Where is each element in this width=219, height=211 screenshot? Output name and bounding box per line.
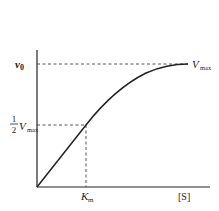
svg-text:1: 1 [12, 114, 17, 124]
svg-text:m: m [88, 196, 94, 204]
half-vmax-label: 1 2 V max [10, 114, 39, 135]
svg-text:max: max [200, 64, 212, 71]
v0-label: v0 [15, 58, 24, 72]
x-axis-label: [S] [178, 191, 190, 202]
vmax-label: V max [192, 58, 212, 71]
svg-text:V: V [19, 120, 27, 132]
svg-text:max: max [27, 126, 39, 133]
svg-text:V: V [192, 58, 200, 70]
svg-text:2: 2 [12, 125, 17, 135]
saturation-curve [37, 64, 188, 187]
michaelis-menten-diagram: v0 1 2 V max V max K m [S] [0, 0, 219, 211]
km-label: K m [80, 190, 94, 204]
